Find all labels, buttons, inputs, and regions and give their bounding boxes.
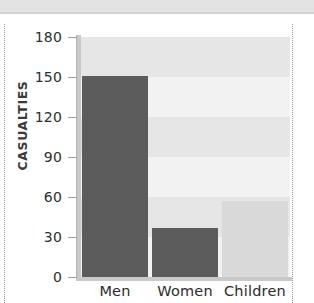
page-top-band [0, 0, 314, 14]
page-rule-right [292, 24, 293, 303]
y-tick-mark [68, 197, 77, 198]
y-tick-mark [68, 77, 77, 78]
page-rule-left [4, 24, 5, 303]
y-tick-label: 150 [35, 70, 62, 84]
x-axis-line [76, 277, 292, 281]
chart-page: CASUALTIES 1801501209060300 MenWomenChil… [0, 0, 314, 303]
y-tick-mark [68, 277, 77, 278]
y-tick-mark [68, 117, 77, 118]
bar-women [152, 228, 218, 277]
x-label-men: Men [80, 283, 150, 299]
y-tick-label: 180 [35, 30, 62, 44]
x-label-children: Children [220, 283, 290, 299]
bar-children [222, 201, 288, 277]
bar-men [82, 76, 148, 277]
y-tick-label: 60 [44, 190, 62, 204]
y-tick-mark [68, 37, 77, 38]
y-tick-label: 0 [53, 270, 62, 284]
y-tick-mark [68, 237, 77, 238]
x-label-women: Women [150, 283, 220, 299]
y-tick-label: 30 [44, 230, 62, 244]
grid-band [80, 37, 290, 77]
y-tick-mark [68, 157, 77, 158]
y-tick-label: 90 [44, 150, 62, 164]
y-axis-title: CASUALTIES [15, 66, 30, 186]
y-tick-label: 120 [35, 110, 62, 124]
